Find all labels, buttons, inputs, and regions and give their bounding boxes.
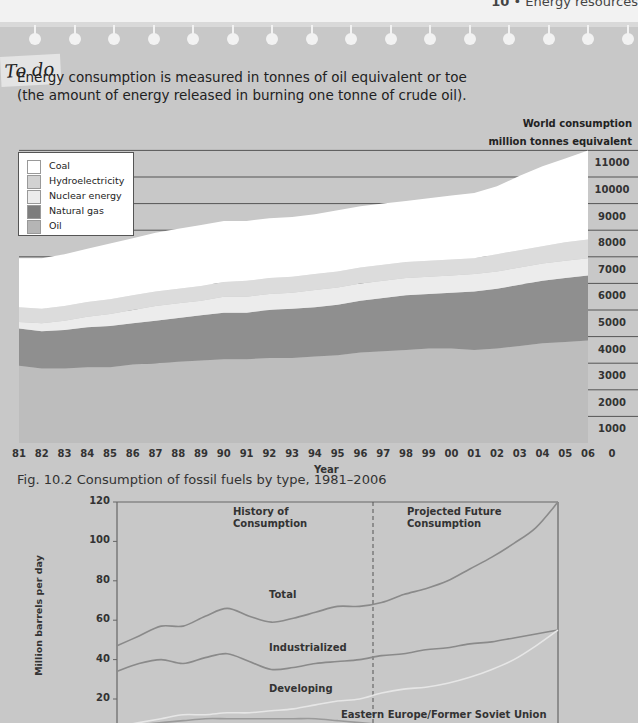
y-axis-title: Million barrels per day: [33, 546, 44, 686]
x-tick-label: 85: [100, 448, 120, 459]
binder-hole: [306, 33, 318, 45]
chapter-number: 10: [491, 0, 509, 9]
x-tick-label: 02: [487, 448, 507, 459]
natural-gas-swatch: [27, 205, 41, 219]
x-tick-label: 94: [305, 448, 325, 459]
projection-annotation: Projected Future Consumption: [407, 506, 502, 530]
label-developing: Developing: [269, 683, 333, 694]
y-tick-label: 9000: [592, 211, 632, 222]
binder-hole: [622, 33, 634, 45]
figure-caption: Fig. 10.2 Consumption of fossil fuels by…: [17, 472, 386, 487]
y-tick-label: 5000: [592, 317, 632, 328]
x-tick-label: 91: [237, 448, 257, 459]
x-tick-label: 04: [532, 448, 552, 459]
y-axis-title-line-1: World consumption: [488, 115, 632, 133]
x-tick-label: 00: [441, 448, 461, 459]
binder-hole: [385, 33, 397, 45]
energy-consumption-chart: Coal Hydroelectricity Nuclear energy Nat…: [0, 140, 638, 450]
separator: •: [514, 0, 522, 9]
x-tick-label: 99: [419, 448, 439, 459]
oil-consumption-chart: 20406080100120 Million barrels per day H…: [0, 490, 638, 723]
binder-hole: [503, 33, 515, 45]
intro-line-1: Energy consumption is measured in tonnes…: [17, 68, 617, 86]
binder-hole: [543, 33, 555, 45]
nuclear-swatch: [27, 190, 41, 204]
x-tick-label: 86: [123, 448, 143, 459]
legend-item-nuclear: Nuclear energy: [27, 189, 122, 203]
intro-line-2: (the amount of energy released in burnin…: [17, 86, 617, 104]
x-tick-label: 95: [328, 448, 348, 459]
y-tick-label: 10000: [592, 184, 632, 195]
x-tick-label: 98: [396, 448, 416, 459]
x-tick-label: 03: [510, 448, 530, 459]
legend-item-oil: Oil: [27, 219, 62, 233]
intro-text: Energy consumption is measured in tonnes…: [17, 68, 617, 104]
x-tick-label: 82: [32, 448, 52, 459]
y-tick-label: 20: [86, 692, 110, 703]
coal-swatch: [27, 160, 41, 174]
x-tick-label: 05: [555, 448, 575, 459]
y-tick-label: 7000: [592, 264, 632, 275]
binder-hole: [464, 33, 476, 45]
binder-hole: [108, 33, 120, 45]
chapter-heading: 10 • Energy resources: [491, 0, 638, 9]
y-tick-label: 100: [86, 534, 110, 545]
y-tick-label: 8000: [592, 237, 632, 248]
history-annotation: History of Consumption: [233, 506, 307, 530]
y-tick-label: 80: [86, 574, 110, 585]
y-tick-label: 6000: [592, 290, 632, 301]
y-tick-label: 60: [86, 613, 110, 624]
y-tick-label: 40: [86, 653, 110, 664]
x-tick-label: 84: [77, 448, 97, 459]
binder-hole: [582, 33, 594, 45]
x-tick-label: 97: [373, 448, 393, 459]
x-tick-label: 81: [9, 448, 29, 459]
page-header: 10 • Energy resources: [0, 0, 638, 22]
label-total: Total: [269, 589, 296, 600]
binder-hole: [187, 33, 199, 45]
y-tick-label: 2000: [592, 397, 632, 408]
x-tick-label: 88: [168, 448, 188, 459]
y-tick-label: 3000: [592, 370, 632, 381]
x-tick-label: 01: [464, 448, 484, 459]
binder-hole: [345, 33, 357, 45]
x-tick-label: 87: [146, 448, 166, 459]
legend-item-coal: Coal: [27, 159, 70, 173]
chart-legend: Coal Hydroelectricity Nuclear energy Nat…: [18, 152, 134, 236]
y-tick-label: 120: [86, 495, 110, 506]
y-tick-label: 4000: [592, 344, 632, 355]
y-tick-label: 11000: [592, 157, 632, 168]
binder-holes: [0, 27, 638, 43]
x-tick-label: 06: [578, 448, 598, 459]
y-tick-label: 0: [592, 448, 632, 459]
oil-swatch: [27, 220, 41, 234]
binder-hole: [148, 33, 160, 45]
label-industrialized: Industrialized: [269, 642, 347, 653]
legend-item-hydroelectricity: Hydroelectricity: [27, 174, 124, 188]
chapter-title: Energy resources: [525, 0, 638, 9]
y-tick-label: 1000: [592, 423, 632, 434]
binder-hole: [227, 33, 239, 45]
label-eastern-europe: Eastern Europe/Former Soviet Union: [341, 709, 547, 720]
hydro-swatch: [27, 175, 41, 189]
x-tick-label: 90: [214, 448, 234, 459]
binder-hole: [69, 33, 81, 45]
legend-item-natural-gas: Natural gas: [27, 204, 104, 218]
x-tick-label: 83: [55, 448, 75, 459]
binder-hole: [424, 33, 436, 45]
binder-hole: [29, 33, 41, 45]
x-tick-label: 96: [350, 448, 370, 459]
x-tick-label: 92: [259, 448, 279, 459]
binder-hole: [266, 33, 278, 45]
x-tick-label: 89: [191, 448, 211, 459]
x-tick-label: 93: [282, 448, 302, 459]
